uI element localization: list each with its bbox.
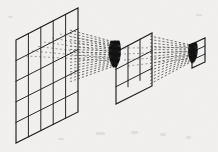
layered-grid-diagram: Perspective layered grid projection diag… bbox=[0, 0, 218, 152]
figure-container: Perspective layered grid projection diag… bbox=[0, 0, 218, 152]
paper-grain-overlay bbox=[0, 0, 218, 152]
